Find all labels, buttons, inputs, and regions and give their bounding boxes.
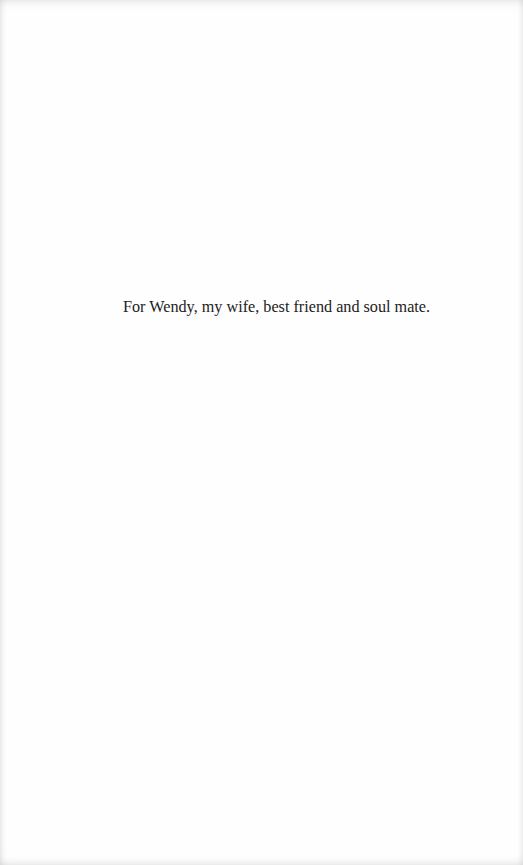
dedication-text: For Wendy, my wife, best friend and soul…	[123, 297, 423, 317]
book-page: For Wendy, my wife, best friend and soul…	[0, 0, 523, 865]
